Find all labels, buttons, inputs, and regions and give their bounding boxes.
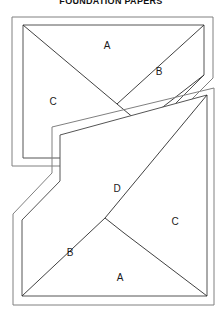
top-block-label-c: C <box>49 96 56 107</box>
bottom-block-label-b: B <box>67 247 74 258</box>
bottom-block-label-d: D <box>113 183 120 194</box>
bottom-block-label-c: C <box>171 216 178 227</box>
top-block-label-a: A <box>104 40 111 51</box>
foundation-papers-diagram: A B C D C B A <box>0 0 222 326</box>
bottom-block-label-a: A <box>117 272 124 283</box>
top-block-label-b: B <box>156 66 163 77</box>
